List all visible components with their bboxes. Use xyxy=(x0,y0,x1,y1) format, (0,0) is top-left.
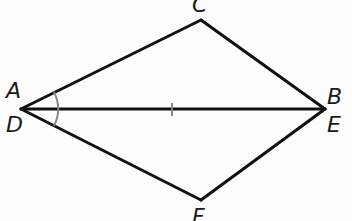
vertex-label-c: C xyxy=(192,0,207,16)
segment-df xyxy=(21,109,201,200)
segment-ac xyxy=(21,20,201,109)
vertex-label-d: D xyxy=(6,114,23,136)
vertex-label-b: B xyxy=(327,86,342,108)
segment-fe xyxy=(201,109,325,200)
geometry-diagram: A D B E C F xyxy=(0,0,352,221)
segment-cb xyxy=(201,20,325,109)
vertex-label-a: A xyxy=(6,80,21,102)
vertex-label-e: E xyxy=(327,114,341,136)
vertex-label-f: F xyxy=(192,206,205,221)
triangles-figure xyxy=(0,0,352,221)
